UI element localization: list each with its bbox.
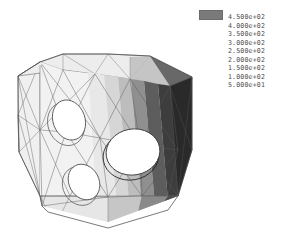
legend-label: 2.500e+02 [228,47,265,56]
legend-label: 3.500e+02 [228,30,265,39]
mesh-face-bottom-chamfer [40,196,178,228]
legend-label: 5.000e+01 [228,81,265,90]
legend-swatch-column [199,10,223,20]
legend-label: 3.000e+02 [228,39,265,48]
legend-label-column: 4.500e+02 4.000e+02 3.500e+02 3.000e+02 … [228,10,265,90]
legend-label: 1.000e+02 [228,73,265,82]
legend-label: 2.000e+02 [228,56,265,65]
legend-label: 4.500e+02 [228,13,265,22]
contour-scale-legend: 4.500e+02 4.000e+02 3.500e+02 3.000e+02 … [199,10,285,90]
legend-label: 4.000e+02 [228,22,265,31]
mesh-face-left [18,62,40,196]
legend-swatch [200,18,222,19]
legend-label: 1.500e+02 [228,64,265,73]
figure-viewport: 4.500e+02 4.000e+02 3.500e+02 3.000e+02 … [0,0,293,243]
